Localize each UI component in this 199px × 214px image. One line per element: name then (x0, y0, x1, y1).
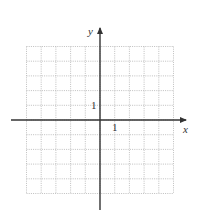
y-axis-label: y (87, 25, 93, 37)
y-tick-label-1: 1 (91, 99, 97, 111)
coordinate-plane: x y 1 1 (0, 0, 199, 214)
x-axis-label: x (182, 123, 188, 135)
x-tick-label-1: 1 (112, 121, 118, 133)
